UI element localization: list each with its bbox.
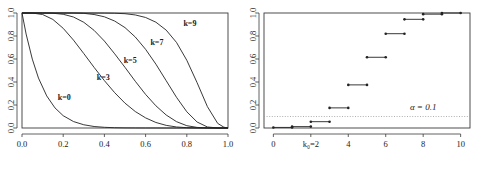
y-tick-label: 0.8: [248, 31, 258, 42]
curve-annotation-k7: k=7: [150, 38, 163, 47]
x-tick-label: 0.2: [58, 139, 69, 149]
x-tick-label: k₀=2: [303, 139, 319, 149]
x-axis: 0k₀=246810: [271, 134, 465, 149]
curve-k7: [22, 13, 228, 128]
curve-annotation-k3: k=3: [97, 73, 110, 82]
curve-annotation-k5: k=5: [124, 56, 137, 65]
right-plot-svg: 0.00.20.40.60.81.00k₀=246810α = 0.1: [242, 0, 483, 170]
y-tick-label: 0.4: [248, 76, 258, 87]
step-segment: [328, 107, 349, 110]
curve-annotation-k9: k=9: [183, 19, 196, 28]
y-tick-label: 0.6: [6, 54, 16, 65]
x-tick-label: 0.6: [140, 139, 151, 149]
curve-k5: [22, 13, 228, 128]
y-axis: 0.00.20.40.60.81.0: [248, 8, 259, 134]
left-plot-svg: 0.00.20.40.60.81.00.00.20.40.60.81.0k=0k…: [0, 0, 241, 170]
y-tick-label: 0.2: [248, 100, 258, 111]
y-tick-label: 1.0: [6, 8, 16, 19]
plot-frame: [22, 13, 228, 128]
y-tick-label: 0.4: [6, 76, 16, 87]
y-tick-label: 0.8: [6, 31, 16, 42]
x-tick-label: 10: [456, 139, 465, 149]
x-tick-label: 0.4: [99, 139, 110, 149]
y-tick-label: 0.6: [248, 54, 258, 65]
y-tick-label: 0.2: [6, 100, 16, 111]
step-segment: [384, 32, 405, 35]
step-segment: [403, 18, 424, 21]
step-segment: [310, 120, 331, 123]
curve-k3: [22, 13, 228, 128]
step-segment: [347, 84, 368, 87]
y-axis: 0.00.20.40.60.81.0: [6, 8, 17, 134]
step-segment: [366, 56, 387, 59]
right-panel: 0.00.20.40.60.81.00k₀=246810α = 0.1: [242, 0, 483, 170]
left-panel: 0.00.20.40.60.81.00.00.20.40.60.81.0k=0k…: [0, 0, 241, 170]
curve-k0: [22, 13, 228, 128]
x-tick-label: 8: [421, 139, 425, 149]
plot-frame: [264, 13, 470, 128]
x-tick-label: 0: [271, 139, 275, 149]
x-tick-label: 0.0: [17, 139, 28, 149]
curve-k9: [22, 13, 228, 128]
y-tick-label: 0.0: [248, 123, 258, 134]
x-tick-label: 1.0: [223, 139, 234, 149]
x-axis: 0.00.20.40.60.81.0: [17, 134, 234, 149]
x-tick-label: 4: [346, 139, 351, 149]
y-tick-label: 1.0: [248, 8, 258, 19]
curve-annotation-k0: k=0: [58, 93, 71, 102]
alpha-reference-label: α = 0.1: [410, 102, 437, 112]
step-segment: [441, 12, 462, 15]
y-tick-label: 0.0: [6, 123, 16, 134]
x-tick-label: 6: [384, 139, 388, 149]
figure-container: 0.00.20.40.60.81.00.00.20.40.60.81.0k=0k…: [0, 0, 483, 170]
x-tick-label: 0.8: [181, 139, 192, 149]
step-segment: [291, 125, 312, 128]
